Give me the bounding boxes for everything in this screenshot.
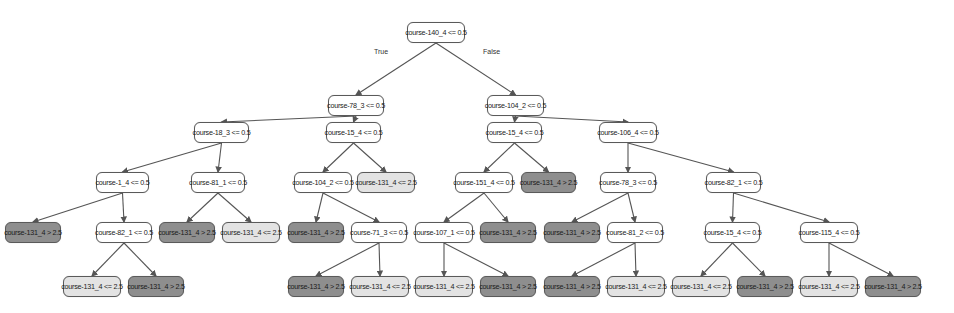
tree-edge	[635, 243, 636, 276]
tree-edge	[33, 193, 123, 222]
tree-edge	[123, 193, 125, 222]
tree-edge	[323, 143, 354, 172]
split-node: course-15_4 <= 0.5	[705, 222, 760, 243]
split-node: course-78_3 <= 0.5	[328, 95, 384, 116]
split-node: course-104_2 <= 0.5	[294, 172, 352, 193]
leaf-node-gt: course-131_4 > 2.5	[737, 276, 793, 297]
leaf-node-le: course-131_4 <= 2.5	[351, 276, 409, 297]
tree-edge	[379, 243, 380, 276]
tree-edge	[123, 143, 222, 172]
tree-edge	[436, 43, 516, 95]
leaf-node-le: course-131_4 <= 2.5	[800, 276, 858, 297]
split-node: course-81_1 <= 0.5	[191, 172, 245, 193]
split-node: course-18_3 <= 0.5	[194, 122, 249, 143]
leaf-node-gt: course-131_4 > 2.5	[480, 222, 536, 243]
split-node: course-82_1 <= 0.5	[96, 222, 152, 243]
leaf-node-gt: course-131_4 > 2.5	[521, 172, 576, 193]
split-node: course-78_3 <= 0.5	[600, 172, 656, 193]
tree-edge	[701, 243, 733, 276]
tree-edge	[187, 193, 218, 222]
tree-edge	[218, 193, 251, 222]
tree-edge	[734, 193, 830, 222]
leaf-node-gt: course-131_4 > 2.5	[865, 276, 921, 297]
split-node: course-71_3 <= 0.5	[351, 222, 407, 243]
decision-tree-diagram: True False course-140_4 <= 0.5course-78_…	[0, 0, 954, 313]
tree-edge	[444, 243, 508, 276]
leaf-node-le: course-131_4 <= 2.5	[357, 172, 415, 193]
split-node: course-15_4 <= 0.5	[487, 122, 542, 143]
tree-edge	[444, 193, 484, 222]
split-node: course-115_4 <= 0.5	[800, 222, 858, 243]
tree-edge	[316, 243, 379, 276]
tree-edge	[218, 143, 222, 172]
true-edge-label: True	[374, 48, 388, 55]
split-node: course-104_2 <= 0.5	[487, 95, 544, 116]
split-node: course-151_4 <= 0.5	[455, 172, 513, 193]
leaf-node-le: course-131_4 <= 2.5	[607, 276, 665, 297]
split-node: course-15_4 <= 0.5	[326, 122, 381, 143]
split-node: course-106_4 <= 0.5	[599, 122, 657, 143]
leaf-node-gt: course-131_4 > 2.5	[288, 276, 344, 297]
split-node: course-82_1 <= 0.5	[706, 172, 761, 193]
leaf-node-le: course-131_4 <= 2.5	[415, 276, 473, 297]
tree-edge	[733, 193, 734, 222]
tree-edge	[356, 43, 436, 95]
leaf-node-gt: course-131_4 > 2.5	[544, 222, 600, 243]
tree-edge	[484, 193, 508, 222]
leaf-node-gt: course-131_4 > 2.5	[544, 276, 600, 297]
tree-edge	[515, 143, 549, 172]
tree-edge	[733, 243, 766, 276]
split-node: course-1_4 <= 0.5	[96, 172, 149, 193]
tree-edges	[0, 0, 954, 313]
leaf-node-le: course-131_4 <= 2.5	[63, 276, 121, 297]
leaf-node-gt: course-131_4 > 2.5	[159, 222, 215, 243]
split-node: course-107_1 <= 0.5	[415, 222, 473, 243]
leaf-node-gt: course-131_4 > 2.5	[5, 222, 61, 243]
false-edge-label: False	[483, 48, 500, 55]
tree-edge	[354, 143, 387, 172]
tree-edge	[484, 143, 515, 172]
tree-edge	[628, 193, 635, 222]
leaf-node-gt: course-131_4 > 2.5	[480, 276, 536, 297]
leaf-node-gt: course-131_4 > 2.5	[288, 222, 344, 243]
tree-edge	[316, 193, 323, 222]
leaf-node-le: course-131_4 <= 2.5	[222, 222, 280, 243]
tree-edge	[628, 143, 734, 172]
tree-edge	[124, 243, 156, 276]
tree-edge	[323, 193, 379, 222]
split-node: course-140_4 <= 0.5	[407, 22, 465, 43]
tree-edge	[92, 243, 124, 276]
tree-edge	[572, 193, 628, 222]
tree-edge	[829, 243, 893, 276]
tree-edge	[572, 243, 635, 276]
leaf-node-le: course-131_4 <= 2.5	[672, 276, 730, 297]
split-node: course-81_2 <= 0.5	[607, 222, 663, 243]
leaf-node-gt: course-131_4 > 2.5	[128, 276, 184, 297]
